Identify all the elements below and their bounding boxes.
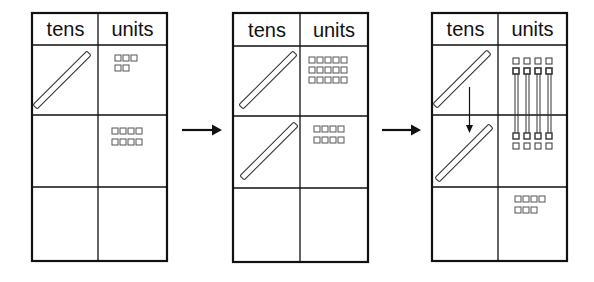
panel-1-frame	[32, 13, 167, 261]
panel-3-header-tens: tens	[433, 13, 498, 45]
unit-squares-group	[314, 126, 344, 143]
panel-3-frame	[432, 13, 567, 261]
arrow-right-icon	[382, 125, 421, 136]
tens-rod-icon	[435, 124, 493, 182]
tens-rod-icon	[33, 51, 91, 109]
panel-3	[432, 13, 567, 261]
arrow-down-icon	[466, 87, 473, 133]
panel-2	[233, 13, 368, 262]
unit-squares-group	[309, 57, 347, 83]
linked-unit-squares	[513, 58, 552, 149]
panel-1-header-tens: tens	[33, 13, 98, 45]
unit-squares-group	[112, 128, 142, 145]
arrow-right-icon	[182, 125, 222, 136]
unit-squares-group	[115, 55, 137, 71]
tens-rod-icon	[239, 51, 297, 109]
tens-rod-icon	[433, 50, 491, 108]
panel-2-header-units: units	[300, 14, 368, 46]
tens-rod-icon	[240, 122, 298, 180]
panel-2-header-tens: tens	[234, 14, 300, 46]
panel-1	[32, 13, 167, 261]
panel-3-header-units: units	[498, 13, 567, 45]
unit-squares-group	[515, 196, 545, 213]
panel-1-header-units: units	[98, 13, 167, 45]
